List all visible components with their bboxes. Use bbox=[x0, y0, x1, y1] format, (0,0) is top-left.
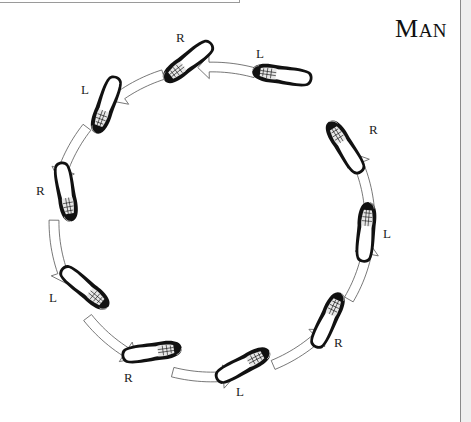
left-foot-label: L bbox=[236, 384, 244, 400]
left-foot-label: L bbox=[81, 82, 89, 98]
step-arrow bbox=[198, 55, 257, 78]
right-shoe-icon bbox=[120, 339, 183, 366]
right-shoe-icon bbox=[52, 160, 81, 223]
left-shoe-icon bbox=[251, 62, 314, 89]
left-shoe-icon bbox=[56, 261, 114, 314]
right-foot-label: R bbox=[369, 122, 378, 138]
right-foot-label: R bbox=[36, 183, 45, 199]
left-foot-label: L bbox=[49, 290, 57, 306]
left-foot-label: L bbox=[383, 226, 391, 242]
right-foot-label: R bbox=[334, 335, 343, 351]
left-shoe-icon bbox=[212, 343, 274, 388]
left-shoe-icon bbox=[87, 73, 125, 136]
left-foot-label: L bbox=[256, 46, 264, 62]
right-foot-label: R bbox=[176, 30, 185, 46]
right-shoe-icon bbox=[321, 117, 369, 178]
right-foot-label: R bbox=[124, 370, 133, 386]
